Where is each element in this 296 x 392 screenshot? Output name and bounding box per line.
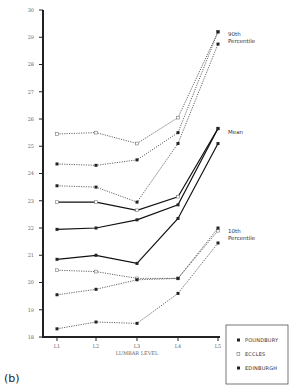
y-tick-label: 26 xyxy=(28,116,34,122)
data-point xyxy=(95,227,98,230)
y-tick-label: 21 xyxy=(28,252,34,258)
data-point xyxy=(56,184,59,187)
legend-marker xyxy=(237,367,240,370)
data-point xyxy=(56,269,59,272)
x-tick-label: L1 xyxy=(54,343,61,349)
data-point xyxy=(177,292,180,295)
legend-label: EDINBURGH xyxy=(245,365,277,371)
series-line xyxy=(57,32,218,166)
data-point xyxy=(136,142,139,145)
data-point xyxy=(56,133,59,136)
data-point xyxy=(56,293,59,296)
data-point xyxy=(95,270,98,273)
data-point xyxy=(56,201,59,204)
x-axis-label: LUMBAR LEVEL xyxy=(116,350,159,356)
data-point xyxy=(177,277,180,280)
data-point xyxy=(95,288,98,291)
y-tick-label: 28 xyxy=(28,61,34,67)
x-tick-label: L3 xyxy=(134,343,141,349)
data-point xyxy=(56,162,59,165)
data-point xyxy=(177,142,180,145)
data-point xyxy=(177,116,180,119)
axes: 18192021222324252627282930L1L2L3L4L5LUMB… xyxy=(28,7,222,356)
data-point xyxy=(95,321,98,324)
data-point xyxy=(95,254,98,257)
series-lines xyxy=(56,30,220,330)
data-point xyxy=(95,164,98,167)
annotation-label: 90th xyxy=(228,31,241,37)
data-point xyxy=(217,30,220,33)
data-point xyxy=(177,203,180,206)
y-tick-label: 18 xyxy=(28,334,34,340)
data-point xyxy=(217,241,220,244)
data-point xyxy=(56,327,59,330)
annotations: 90thPercentileMean10thPercentile xyxy=(228,31,256,241)
data-point xyxy=(217,227,220,230)
y-tick-label: 23 xyxy=(28,198,34,204)
annotation-label: Percentile xyxy=(228,235,256,241)
series-line xyxy=(57,231,218,279)
legend: POUNDBURYECCLESEDINBURGH xyxy=(226,325,288,384)
data-point xyxy=(217,142,220,145)
annotation-label: Percentile xyxy=(228,38,256,44)
data-point xyxy=(136,262,139,265)
x-tick-label: L5 xyxy=(215,343,222,349)
data-point xyxy=(95,186,98,189)
data-point xyxy=(136,158,139,161)
line-chart: 18192021222324252627282930L1L2L3L4L5LUMB… xyxy=(0,0,296,392)
y-tick-label: 20 xyxy=(28,279,34,285)
data-point xyxy=(217,127,220,130)
annotation-label: 10th xyxy=(228,228,241,234)
data-point xyxy=(136,209,139,212)
data-point xyxy=(177,195,180,198)
data-point xyxy=(56,258,59,261)
legend-marker xyxy=(237,339,240,342)
annotation-label: Mean xyxy=(228,129,243,135)
data-point xyxy=(95,131,98,134)
data-point xyxy=(136,322,139,325)
data-point xyxy=(95,201,98,204)
x-tick-label: L4 xyxy=(175,343,182,349)
data-point xyxy=(56,228,59,231)
y-tick-label: 29 xyxy=(28,34,34,40)
y-tick-label: 30 xyxy=(28,7,34,13)
y-tick-label: 19 xyxy=(28,307,34,313)
series-line xyxy=(57,228,218,295)
y-tick-label: 22 xyxy=(28,225,34,231)
series-line xyxy=(57,129,218,211)
data-point xyxy=(177,217,180,220)
panel-label: (b) xyxy=(4,372,20,385)
data-point xyxy=(217,43,220,46)
legend-label: ECCLES xyxy=(245,351,265,357)
data-point xyxy=(136,278,139,281)
y-tick-label: 27 xyxy=(28,89,34,95)
series-line xyxy=(57,44,218,202)
series-line xyxy=(57,243,218,329)
series-line xyxy=(57,32,218,144)
x-tick-label: L2 xyxy=(93,343,100,349)
legend-label: POUNDBURY xyxy=(245,337,279,343)
y-tick-label: 25 xyxy=(28,143,34,149)
data-point xyxy=(177,131,180,134)
y-tick-label: 24 xyxy=(28,170,34,176)
data-point xyxy=(136,218,139,221)
data-point xyxy=(136,201,139,204)
legend-marker xyxy=(237,353,240,356)
